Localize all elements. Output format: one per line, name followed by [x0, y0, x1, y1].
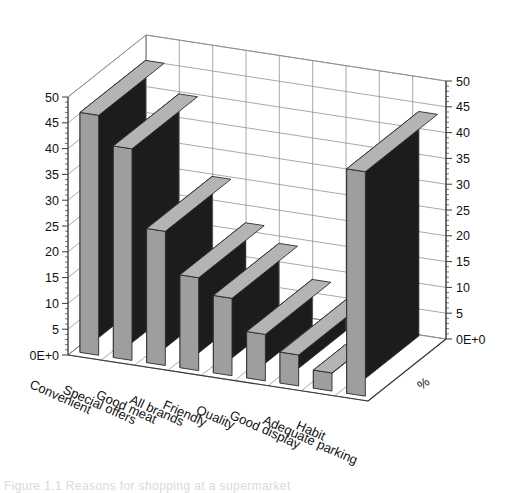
left-axis-tick-label: 5	[52, 323, 59, 337]
bar-front-face	[347, 169, 366, 396]
bar-front-face	[313, 370, 332, 391]
left-axis-tick-label: 25	[45, 220, 59, 234]
right-axis-tick-label: 25	[456, 204, 470, 218]
figure-caption: Figure 1.1 Reasons for shopping at a sup…	[4, 479, 291, 493]
depth-axis-label: %	[414, 374, 433, 393]
right-axis-tick-label: 45	[456, 100, 470, 114]
left-axis-tick-label: 35	[45, 168, 59, 182]
left-axis-tick-label: 30	[45, 194, 59, 208]
left-axis-tick-label: 10	[45, 297, 59, 311]
bar-front-face	[247, 332, 266, 381]
left-axis-tick-label: 50	[45, 91, 59, 105]
bar-front-face	[280, 352, 299, 386]
bar-front-face	[113, 146, 132, 360]
left-axis-tick-label: 15	[45, 271, 59, 285]
right-axis-tick-label: 15	[456, 255, 470, 269]
left-axis-tick-label: 20	[45, 245, 59, 259]
bar-front-face	[80, 112, 99, 355]
left-axis-tick-label: 0E+0	[29, 349, 59, 363]
right-axis-tick-label: 30	[456, 178, 470, 192]
left-axis-tick-label: 40	[45, 142, 59, 156]
bar-front-face	[213, 295, 232, 375]
right-axis-tick-label: 0E+0	[456, 333, 486, 347]
right-axis-tick-label: 50	[456, 75, 470, 89]
right-axis-tick-label: 10	[456, 281, 470, 295]
right-axis-tick-label: 35	[456, 152, 470, 166]
right-axis-tick-label: 20	[456, 229, 470, 243]
right-axis-tick-label: 40	[456, 126, 470, 140]
right-axis-tick-label: 5	[456, 307, 463, 321]
bar-front-face	[180, 275, 199, 371]
left-axis-tick-label: 45	[45, 116, 59, 130]
bar-front-face	[147, 228, 166, 365]
